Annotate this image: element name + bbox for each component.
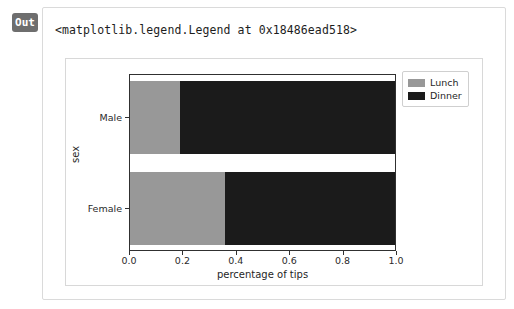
bar-row [130, 81, 395, 154]
x-axis-label: percentage of tips [129, 269, 396, 280]
bar-segment-lunch [130, 81, 180, 154]
bar-segment-dinner [180, 81, 395, 154]
x-axis-tick-label: 0.8 [335, 255, 350, 266]
repr-text: <matplotlib.legend.Legend at 0x18486ead5… [55, 23, 357, 37]
x-axis-tick-label: 1.0 [388, 255, 403, 266]
legend-swatch-icon [408, 79, 425, 87]
x-axis-tick-label: 0.4 [228, 255, 243, 266]
x-axis-tick-labels: 0.00.20.40.60.81.0 [129, 255, 396, 269]
y-axis-label: sex [70, 146, 81, 163]
x-axis-tick-label: 0.6 [282, 255, 297, 266]
legend-label: Lunch [430, 76, 458, 89]
y-axis-tick [125, 208, 129, 209]
bar-row [130, 172, 395, 245]
y-axis-tick-label: Female [88, 202, 122, 213]
notebook-output-row: Out <matplotlib.legend.Legend at 0x18486… [0, 0, 514, 309]
legend-entry: Dinner [408, 89, 462, 102]
legend-swatch-icon [408, 92, 425, 100]
output-card: <matplotlib.legend.Legend at 0x18486ead5… [42, 7, 506, 300]
output-prompt-badge: Out [12, 13, 38, 32]
plot-axes [129, 74, 396, 251]
legend-label: Dinner [430, 89, 462, 102]
y-axis-ticks [125, 74, 129, 251]
x-axis-tick-label: 0.0 [121, 255, 136, 266]
legend-entry: Lunch [408, 76, 462, 89]
bar-segment-dinner [225, 172, 395, 245]
y-axis-tick [125, 117, 129, 118]
bar-segment-lunch [130, 172, 225, 245]
y-axis-tick-label: Male [99, 111, 122, 122]
x-axis-tick-label: 0.2 [175, 255, 190, 266]
matplotlib-figure: MaleFemale sex 0.00.20.40.60.81.0 percen… [65, 58, 483, 286]
chart-legend: LunchDinner [402, 71, 469, 107]
